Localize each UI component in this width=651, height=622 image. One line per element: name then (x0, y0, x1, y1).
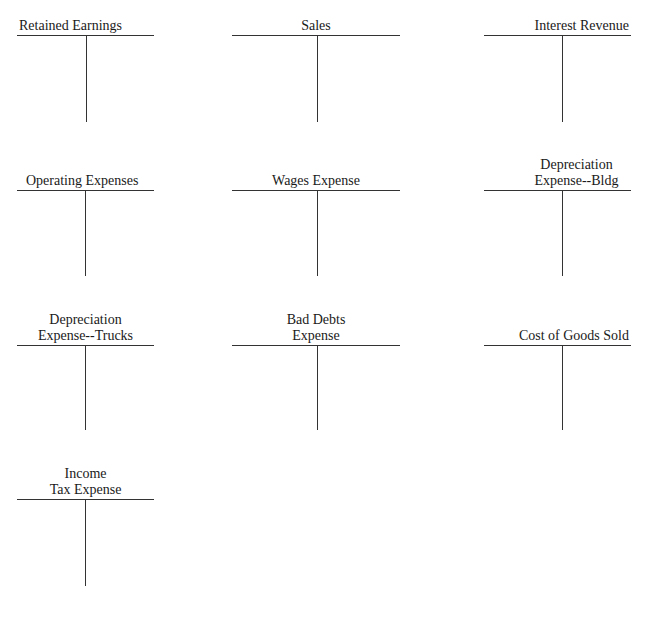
t-account-divider-line (562, 35, 563, 122)
title-line-1: Depreciation (522, 157, 631, 173)
t-account-cost-of-goods-sold: Cost of Goods Sold (484, 300, 631, 430)
t-account-top-line (484, 190, 631, 191)
t-account-operating-expenses: Operating Expenses (17, 150, 154, 276)
t-account-top-line (484, 35, 631, 36)
title-line-2: Expense--Trucks (17, 328, 154, 344)
t-account-depreciation-expense-trucks: Depreciation Expense--Trucks (17, 300, 154, 430)
title-line-1: Income (17, 466, 154, 482)
t-account-depreciation-expense-bldg: Depreciation Expense--Bldg (484, 150, 631, 276)
t-account-divider-line (562, 190, 563, 276)
title-line-2: Cost of Goods Sold (484, 328, 629, 344)
t-account-divider-line (317, 190, 318, 276)
t-account-wages-expense: Wages Expense (232, 150, 400, 276)
t-account-divider-line (317, 345, 318, 430)
title-line-2: Tax Expense (17, 482, 154, 498)
t-account-top-line (232, 190, 400, 191)
t-account-top-line (484, 345, 631, 346)
account-title: Bad Debts Expense (232, 300, 400, 345)
account-title: Depreciation Expense--Bldg (484, 150, 631, 190)
t-account-top-line (232, 35, 400, 36)
t-account-interest-revenue: Interest Revenue (484, 0, 631, 122)
t-account-sales: Sales (232, 0, 400, 122)
t-account-divider-line (85, 499, 86, 586)
title-line-2: Interest Revenue (484, 18, 629, 34)
t-account-retained-earnings: Retained Earnings (17, 0, 154, 122)
title-line-2: Expense (232, 328, 400, 344)
account-title: Cost of Goods Sold (484, 300, 631, 345)
title-line-1: Bad Debts (232, 312, 400, 328)
t-account-income-tax-expense: Income Tax Expense (17, 450, 154, 586)
account-title: Sales (232, 0, 400, 35)
t-account-bad-debts-expense: Bad Debts Expense (232, 300, 400, 430)
t-account-divider-line (562, 345, 563, 430)
title-line-2: Operating Expenses (26, 173, 154, 189)
title-line-1: Depreciation (17, 312, 154, 328)
title-line-2: Wages Expense (232, 173, 400, 189)
account-title: Wages Expense (232, 150, 400, 190)
t-account-top-line (232, 345, 400, 346)
title-line-2: Sales (232, 18, 400, 34)
account-title: Interest Revenue (484, 0, 631, 35)
t-account-divider-line (85, 345, 86, 430)
t-account-divider-line (86, 35, 87, 122)
title-line-2: Expense--Bldg (522, 173, 631, 189)
title-line-2: Retained Earnings (19, 18, 154, 34)
account-title: Operating Expenses (17, 150, 154, 190)
account-title: Income Tax Expense (17, 450, 154, 499)
account-title: Depreciation Expense--Trucks (17, 300, 154, 345)
t-account-divider-line (317, 35, 318, 122)
t-account-divider-line (85, 190, 86, 276)
account-title: Retained Earnings (17, 0, 154, 35)
